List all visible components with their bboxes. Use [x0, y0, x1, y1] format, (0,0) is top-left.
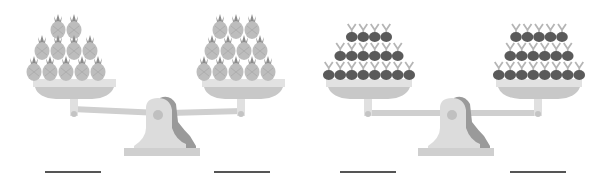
- cherry-icon: [516, 43, 528, 61]
- beam-right: [464, 110, 540, 116]
- scale-illustration: [304, 0, 608, 185]
- pan-left: [35, 87, 114, 99]
- answer-blank-left[interactable]: [340, 171, 396, 173]
- cherry-icon: [516, 62, 528, 80]
- cherry-icon: [357, 43, 369, 61]
- cherry-icon: [573, 62, 585, 80]
- answer-blank-right[interactable]: [510, 171, 566, 173]
- cherry-icon: [380, 62, 392, 80]
- pan-right: [498, 87, 580, 99]
- answer-blank-left[interactable]: [45, 171, 101, 173]
- cherry-icon: [550, 62, 562, 80]
- pineapple-icon: [205, 35, 220, 60]
- cherry-icon: [527, 43, 539, 61]
- pineapple-icon: [213, 56, 228, 81]
- pineapple-icon: [91, 56, 106, 81]
- pineapple-icon: [197, 56, 212, 81]
- pineapple-icon: [261, 56, 276, 81]
- cherry-icon: [550, 43, 562, 61]
- cherry-icon: [346, 62, 358, 80]
- cherry-icon: [539, 62, 551, 80]
- cherry-icon: [392, 62, 404, 80]
- pineapple-icon: [43, 56, 58, 81]
- pineapple-icon: [67, 35, 82, 60]
- scale-illustration: [0, 0, 304, 185]
- cherry-icon: [357, 24, 369, 42]
- pineapple-icon: [75, 56, 90, 81]
- pineapple-stack-right: [197, 14, 276, 81]
- answer-blank-right[interactable]: [214, 171, 270, 173]
- pineapple-icon: [27, 56, 42, 81]
- scale-base: [418, 148, 494, 156]
- cherry-icon: [323, 62, 335, 80]
- cherry-icon: [556, 24, 568, 42]
- scale-base: [124, 148, 200, 156]
- pineapple-icon: [253, 35, 268, 60]
- cherry-icon: [380, 24, 392, 42]
- pineapple-icon: [35, 35, 50, 60]
- pan-rim-left: [33, 79, 116, 87]
- cherry-icon: [562, 43, 574, 61]
- pan-rim-right: [202, 79, 285, 87]
- cherry-icon: [504, 62, 516, 80]
- pineapple-icon: [213, 14, 228, 39]
- pineapple-icon: [245, 56, 260, 81]
- pineapple-icon: [51, 35, 66, 60]
- pineapple-icon: [221, 35, 236, 60]
- cherry-icon: [334, 43, 346, 61]
- cherry-icon: [539, 43, 551, 61]
- cherry-icon: [369, 43, 381, 61]
- cherry-stack-right: [493, 24, 585, 80]
- cherry-icon: [392, 43, 404, 61]
- cherry-icon: [504, 43, 516, 61]
- cherry-icon: [510, 24, 522, 42]
- cherry-icon: [533, 24, 545, 42]
- beam-right: [170, 108, 242, 116]
- balance-scale-pineapples: 11 12: [0, 0, 304, 185]
- cherry-icon: [369, 62, 381, 80]
- balance-scale-cherries: 18 19: [304, 0, 608, 185]
- pineapple-icon: [59, 56, 74, 81]
- cherry-icon: [403, 62, 415, 80]
- pineapple-icon: [229, 56, 244, 81]
- pivot-icon: [447, 110, 457, 120]
- cherry-icon: [522, 24, 534, 42]
- pan-left: [328, 87, 410, 99]
- pan-right: [204, 87, 283, 99]
- cherry-icon: [369, 24, 381, 42]
- pivot-icon: [153, 110, 163, 120]
- pineapple-icon: [237, 35, 252, 60]
- cherry-icon: [346, 24, 358, 42]
- pan-rim-right: [496, 79, 582, 87]
- cherry-icon: [493, 62, 505, 80]
- pineapple-stack-left: [27, 14, 106, 81]
- cherry-icon: [545, 24, 557, 42]
- cherry-icon: [357, 62, 369, 80]
- pineapple-icon: [83, 35, 98, 60]
- pineapple-icon: [245, 14, 260, 39]
- cherry-icon: [527, 62, 539, 80]
- cherry-icon: [346, 43, 358, 61]
- cherry-stack-left: [323, 24, 415, 80]
- cherry-icon: [380, 43, 392, 61]
- cherry-icon: [334, 62, 346, 80]
- pineapple-icon: [229, 14, 244, 39]
- cherry-icon: [562, 62, 574, 80]
- pan-rim-left: [326, 79, 412, 87]
